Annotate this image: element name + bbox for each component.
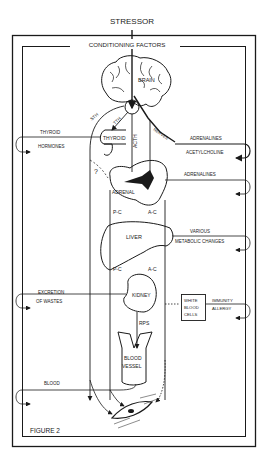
pc-upper-label: P-C — [113, 209, 122, 215]
allergy-label: ALLERGY — [212, 306, 232, 311]
of-wastes-label: OF WASTES — [36, 299, 62, 304]
pc-lower-label: P-C — [113, 266, 122, 272]
liver-label: LIVER — [126, 234, 142, 240]
wbc-label-2: BLOOD — [184, 305, 199, 310]
acetylcholine-label: ACETYLCHOLINE — [186, 150, 224, 155]
liver-icon — [101, 222, 173, 270]
cell-icon — [112, 394, 160, 428]
sth-label: STH — [89, 112, 99, 122]
figure-label: FIGURE 2 — [30, 427, 60, 434]
ac-lower-label: A-C — [148, 266, 157, 272]
brain-label: BRAIN — [138, 77, 155, 83]
various-label: VARIOUS — [190, 229, 210, 234]
tth-label: TTH — [112, 116, 122, 126]
nerves-label: NERVES — [152, 127, 169, 141]
thyroid-icon — [100, 130, 126, 155]
rps-label: RPS — [139, 320, 150, 326]
thyroid-hormones-label-2: HORMONES — [38, 144, 65, 149]
question-mark: ? — [94, 168, 98, 175]
blood-vessel-label-1: BLOOD — [124, 355, 142, 361]
blood-label: BLOOD — [44, 381, 61, 386]
adrenalines-label-1: ADRENALINES — [190, 136, 222, 141]
adrenalines-label-2: ADRENALINES — [184, 172, 216, 177]
brain-icon — [102, 56, 171, 114]
immunity-label: IMMUNITY — [212, 298, 233, 303]
wbc-label-3: CELLS — [184, 312, 197, 317]
wbc-label-1: WHITE — [184, 298, 198, 303]
stressor-title: STRESSOR — [110, 17, 154, 26]
thyroid-hormones-label-1: THYROID — [40, 130, 61, 135]
thyroid-label: THYROID — [103, 135, 126, 141]
kidney-label: KIDNEY — [132, 292, 151, 298]
ac-upper-label: A-C — [148, 209, 157, 215]
excretion-label: EXCRETION — [38, 290, 64, 295]
adrenal-label: ADRENAL — [112, 190, 135, 195]
stress-response-diagram: BRAIN THYROID STH TTH ACTH NERVES ? THYR… — [0, 0, 264, 457]
conditioning-factors-label: CONDITIONING FACTORS — [89, 41, 166, 48]
blood-vessel-label-2: VESSEL — [122, 363, 142, 369]
metabolic-changes-label: METABOLIC CHANGES — [175, 239, 224, 244]
acth-label: ACTH — [132, 134, 138, 148]
